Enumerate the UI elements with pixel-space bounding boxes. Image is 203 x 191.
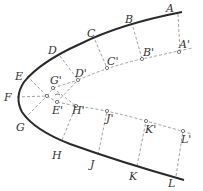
connector-E [27,76,47,96]
label-G-prime: G' [50,74,62,87]
marker-center [45,94,48,97]
label-J: J [88,158,95,171]
label-A-prime: A' [178,38,190,51]
label-C: C [87,27,96,40]
label-H: H [51,149,62,162]
label-D: D [47,44,57,57]
label-K-prime: K' [144,123,156,136]
label-L-prime: L' [180,133,191,146]
label-H-prime: H' [71,104,85,117]
label-A: A [165,2,174,15]
label-D-prime: D' [74,67,87,80]
connector-C [95,40,107,68]
connector-B [133,27,142,59]
label-L: L [167,177,175,190]
label-E: E [14,70,23,83]
diagram-svg: A B C D E F G H J K L A' B' C' D' G' E' … [0,0,203,191]
connector-lines [17,14,183,176]
label-F: F [3,91,12,104]
label-J-prime: J' [104,112,113,125]
label-E-prime: E' [51,104,63,117]
diagram-canvas: A B C D E F G H J K L A' B' C' D' G' E' … [0,0,203,191]
label-K: K [128,170,138,183]
label-G: G [16,121,25,134]
marker-center-arc [55,94,60,95]
inner-dashed-lower [76,106,192,134]
label-C-prime: C' [107,55,118,68]
label-B-prime: B' [142,46,154,59]
connector-F [17,96,47,97]
connector-G [25,96,47,118]
inner-dashed-upper [78,48,192,80]
label-B: B [124,13,133,26]
